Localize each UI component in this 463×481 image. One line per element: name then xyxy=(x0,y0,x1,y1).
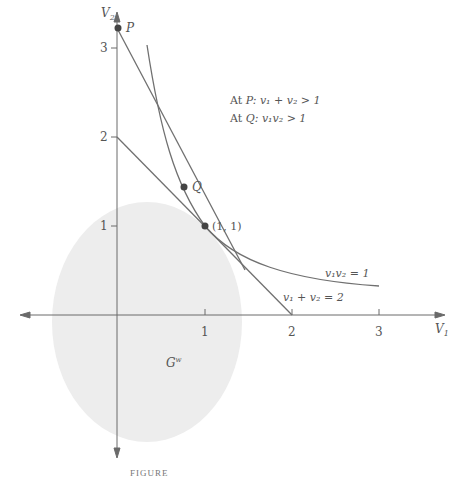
point-p xyxy=(115,25,122,32)
y-tick-2: 2 xyxy=(100,130,108,144)
label-line: v₁ + v₂ = 2 xyxy=(283,291,344,304)
x-axis-right-arrow-icon xyxy=(435,312,445,318)
x-axis-left-arrow-icon xyxy=(20,312,30,318)
y-tick-3: 3 xyxy=(100,41,108,55)
x-tick-3: 3 xyxy=(375,325,383,339)
y-axis-up-arrow-icon xyxy=(114,12,120,22)
label-p: P xyxy=(125,21,135,35)
y-axis-down-arrow-icon xyxy=(114,448,120,458)
figure-diagram: 1 2 3 1 2 3 V1 V2 P Q (1, 1) At P: v₁ + … xyxy=(0,0,463,481)
x-axis-label: V1 xyxy=(435,322,449,338)
label-hyperbola: v₁v₂ = 1 xyxy=(325,267,369,280)
label-q: Q xyxy=(192,180,202,194)
x-tick-1: 1 xyxy=(201,325,209,339)
region-g-w xyxy=(52,202,242,442)
point-q xyxy=(181,184,188,191)
label-tangent-point: (1, 1) xyxy=(212,220,242,233)
x-tick-2: 2 xyxy=(288,325,296,339)
annotation-p: At P: v₁ + v₂ > 1 xyxy=(229,94,321,107)
point-tangent xyxy=(202,223,209,230)
y-axis-label: V2 xyxy=(101,6,115,22)
y-tick-1: 1 xyxy=(100,219,108,233)
annotation-q: At Q: v₁v₂ > 1 xyxy=(229,112,306,125)
figure-caption: FIGURE xyxy=(130,468,169,478)
